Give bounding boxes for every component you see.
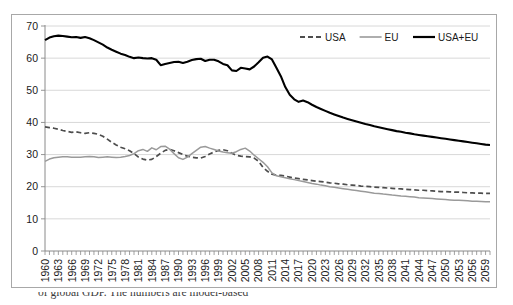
svg-text:1999: 1999 <box>212 259 224 283</box>
svg-text:1984: 1984 <box>146 259 158 283</box>
svg-text:50: 50 <box>26 84 38 96</box>
svg-text:2017: 2017 <box>292 259 304 283</box>
svg-text:2005: 2005 <box>239 259 251 283</box>
svg-text:10: 10 <box>26 213 38 225</box>
svg-text:2038: 2038 <box>386 259 398 283</box>
svg-text:60: 60 <box>26 52 38 64</box>
svg-text:2041: 2041 <box>399 259 411 283</box>
svg-text:1996: 1996 <box>199 259 211 283</box>
svg-text:1963: 1963 <box>52 259 64 283</box>
svg-text:1975: 1975 <box>106 259 118 283</box>
svg-text:1993: 1993 <box>186 259 198 283</box>
legend-label-eu: EU <box>385 32 399 43</box>
chart-legend: USAEUUSA+EU <box>300 32 478 43</box>
y-axis-ticks <box>41 26 45 251</box>
x-axis-labels: 1960196319661969197219751978198119841987… <box>39 259 492 283</box>
svg-text:2029: 2029 <box>346 259 358 283</box>
series-line-usa <box>45 127 490 194</box>
svg-text:2020: 2020 <box>306 259 318 283</box>
svg-text:20: 20 <box>26 180 38 192</box>
svg-text:1966: 1966 <box>66 259 78 283</box>
svg-text:2026: 2026 <box>333 259 345 283</box>
legend-label-usa-plus-eu: USA+EU <box>438 32 478 43</box>
legend-label-usa: USA <box>325 32 346 43</box>
svg-text:2056: 2056 <box>466 259 478 283</box>
svg-text:2059: 2059 <box>479 259 491 283</box>
figure-caption: of global GDP. The numbers are model-bas… <box>0 292 513 305</box>
x-axis-ticks <box>45 251 490 255</box>
svg-text:0: 0 <box>32 245 38 257</box>
svg-text:2035: 2035 <box>373 259 385 283</box>
svg-text:1981: 1981 <box>132 259 144 283</box>
series-lines <box>45 36 490 202</box>
svg-text:2044: 2044 <box>413 259 425 283</box>
svg-text:2008: 2008 <box>252 259 264 283</box>
caption-text: of global GDP. The numbers are model-bas… <box>38 292 248 298</box>
svg-text:1960: 1960 <box>39 259 51 283</box>
svg-text:2002: 2002 <box>226 259 238 283</box>
svg-text:2011: 2011 <box>266 259 278 282</box>
svg-text:40: 40 <box>26 116 38 128</box>
svg-text:1987: 1987 <box>159 259 171 283</box>
svg-text:2014: 2014 <box>279 259 291 283</box>
svg-text:1978: 1978 <box>119 259 131 283</box>
svg-text:1972: 1972 <box>92 259 104 283</box>
svg-text:70: 70 <box>26 20 38 32</box>
svg-text:2047: 2047 <box>426 259 438 283</box>
svg-text:2023: 2023 <box>319 259 331 283</box>
plot-axis-lines <box>45 25 490 251</box>
line-chart-plot: 010203040506070 196019631966196919721975… <box>12 15 496 287</box>
svg-text:1969: 1969 <box>79 259 91 283</box>
svg-text:30: 30 <box>26 148 38 160</box>
svg-text:2053: 2053 <box>453 259 465 283</box>
chart-frame: 010203040506070 196019631966196919721975… <box>11 14 497 288</box>
y-axis-labels: 010203040506070 <box>26 20 38 257</box>
svg-text:2050: 2050 <box>439 259 451 283</box>
svg-text:2032: 2032 <box>359 259 371 283</box>
svg-text:1990: 1990 <box>172 259 184 283</box>
figure: 010203040506070 196019631966196919721975… <box>0 0 513 305</box>
